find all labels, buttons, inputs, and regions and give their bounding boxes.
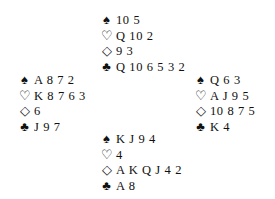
diamond-icon: ◇ bbox=[194, 103, 207, 119]
south-hearts: 4 bbox=[116, 148, 123, 162]
east-spades-row: ♠Q 6 3 bbox=[194, 72, 255, 88]
south-spades-row: ♠K J 9 4 bbox=[100, 131, 182, 147]
south-hand: ♠K J 9 4 ♡4 ◇A K Q J 4 2 ♣A 8 bbox=[100, 131, 182, 193]
east-clubs-row: ♣K 4 bbox=[194, 119, 255, 135]
club-icon: ♣ bbox=[100, 59, 113, 75]
spade-icon: ♠ bbox=[18, 72, 31, 88]
west-spades: A 8 7 2 bbox=[34, 73, 75, 87]
north-diamonds-row: ◇9 3 bbox=[100, 43, 185, 59]
west-diamonds-row: ◇6 bbox=[18, 103, 86, 119]
west-hearts: K 8 7 6 3 bbox=[34, 89, 86, 103]
club-icon: ♣ bbox=[194, 119, 207, 135]
club-icon: ♣ bbox=[18, 119, 31, 135]
west-clubs-row: ♣J 9 7 bbox=[18, 119, 86, 135]
west-hearts-row: ♡K 8 7 6 3 bbox=[18, 88, 86, 104]
east-clubs: K 4 bbox=[210, 120, 230, 134]
east-diamonds-row: ◇10 8 7 5 bbox=[194, 103, 255, 119]
club-icon: ♣ bbox=[100, 178, 113, 194]
north-hand: ♠10 5 ♡Q 10 2 ◇9 3 ♣Q 10 6 5 3 2 bbox=[100, 12, 185, 74]
north-spades: 10 5 bbox=[116, 13, 140, 27]
heart-icon: ♡ bbox=[100, 28, 113, 44]
west-hand: ♠A 8 7 2 ♡K 8 7 6 3 ◇6 ♣J 9 7 bbox=[18, 72, 86, 134]
north-spades-row: ♠10 5 bbox=[100, 12, 185, 28]
west-clubs: J 9 7 bbox=[34, 120, 61, 134]
heart-icon: ♡ bbox=[18, 88, 31, 104]
diamond-icon: ◇ bbox=[100, 43, 113, 59]
east-spades: Q 6 3 bbox=[210, 73, 241, 87]
south-spades: K J 9 4 bbox=[116, 132, 156, 146]
spade-icon: ♠ bbox=[100, 12, 113, 28]
south-hearts-row: ♡4 bbox=[100, 147, 182, 163]
east-hearts: A J 9 5 bbox=[210, 89, 249, 103]
south-clubs: A 8 bbox=[116, 179, 136, 193]
spade-icon: ♠ bbox=[194, 72, 207, 88]
west-diamonds: 6 bbox=[34, 104, 41, 118]
north-hearts-row: ♡Q 10 2 bbox=[100, 28, 185, 44]
spade-icon: ♠ bbox=[100, 131, 113, 147]
south-diamonds-row: ◇A K Q J 4 2 bbox=[100, 162, 182, 178]
diamond-icon: ◇ bbox=[100, 162, 113, 178]
north-clubs-row: ♣Q 10 6 5 3 2 bbox=[100, 59, 185, 75]
east-hearts-row: ♡A J 9 5 bbox=[194, 88, 255, 104]
diamond-icon: ◇ bbox=[18, 103, 31, 119]
east-hand: ♠Q 6 3 ♡A J 9 5 ◇10 8 7 5 ♣K 4 bbox=[194, 72, 255, 134]
north-hearts: Q 10 2 bbox=[116, 29, 154, 43]
north-diamonds: 9 3 bbox=[116, 44, 133, 58]
west-spades-row: ♠A 8 7 2 bbox=[18, 72, 86, 88]
heart-icon: ♡ bbox=[100, 147, 113, 163]
heart-icon: ♡ bbox=[194, 88, 207, 104]
east-diamonds: 10 8 7 5 bbox=[210, 104, 255, 118]
south-diamonds: A K Q J 4 2 bbox=[116, 163, 182, 177]
north-clubs: Q 10 6 5 3 2 bbox=[116, 60, 185, 74]
south-clubs-row: ♣A 8 bbox=[100, 178, 182, 194]
